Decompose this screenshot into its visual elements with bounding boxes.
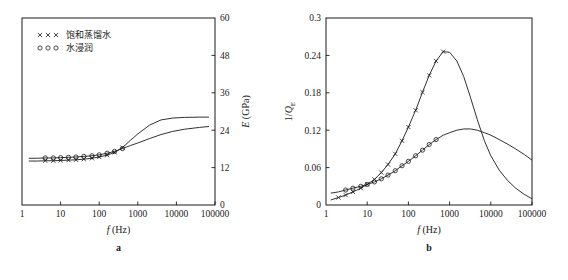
series-markers-2 — [344, 137, 439, 192]
legend-label: 水浸润 — [66, 42, 93, 53]
circle-marker — [54, 46, 58, 50]
figure-root: 11010010001000010000001224364860f (Hz)E … — [0, 0, 568, 280]
legend-label: 饱和蒸馏水 — [66, 29, 111, 40]
chart-b-svg: 11010010001000010000000.060.120.180.240.… — [284, 0, 568, 280]
series-curve-2 — [331, 129, 532, 193]
series-curve-2 — [29, 126, 209, 158]
x-tick-label: 10000 — [165, 209, 189, 219]
y-tick-label: 0.18 — [304, 88, 321, 98]
y-tick-label: 48 — [220, 51, 230, 61]
y-tick-label: 24 — [220, 126, 230, 136]
panel-a: 11010010001000010000001224364860f (Hz)E … — [0, 0, 284, 280]
y-axis-label: 1/QE — [284, 102, 297, 121]
x-tick-label: 100 — [92, 209, 107, 219]
x-tick-label: 1 — [20, 209, 25, 219]
y-tick-label: 60 — [220, 13, 230, 23]
series-curve-1 — [29, 117, 209, 161]
y-tick-label: 36 — [220, 88, 230, 98]
panel-tag: a — [116, 242, 121, 253]
series-curve-1 — [331, 52, 532, 200]
x-tick-label: 100000 — [201, 209, 230, 219]
x-tick-label: 1000 — [440, 209, 459, 219]
plot-frame — [22, 18, 215, 205]
x-tick-label: 100 — [401, 209, 416, 219]
x-tick-label: 1000 — [128, 209, 147, 219]
y-tick-label: 12 — [220, 163, 230, 173]
legend: 饱和蒸馏水水浸润 — [38, 29, 111, 53]
panel-tag: b — [426, 242, 432, 253]
plot-frame — [326, 18, 532, 205]
y-tick-label: 0.12 — [304, 126, 321, 136]
x-tick-label: 10 — [362, 209, 372, 219]
circle-marker — [46, 46, 50, 50]
panel-b: 11010010001000010000000.060.120.180.240.… — [284, 0, 568, 280]
y-tick-label: 0 — [316, 200, 321, 210]
y-tick-label: 0.24 — [304, 51, 321, 61]
x-axis-label: f (Hz) — [107, 224, 131, 236]
circle-marker — [38, 46, 42, 50]
chart-a-svg: 11010010001000010000001224364860f (Hz)E … — [0, 0, 284, 280]
x-tick-label: 10000 — [479, 209, 503, 219]
x-tick-label: 10 — [56, 209, 66, 219]
x-axis-label: f (Hz) — [417, 224, 441, 236]
x-tick-label: 100000 — [518, 209, 547, 219]
x-tick-label: 1 — [324, 209, 329, 219]
y-tick-label: 0.3 — [309, 13, 321, 23]
y-tick-label: 0.06 — [304, 163, 321, 173]
series-markers-1 — [336, 50, 445, 200]
y-tick-label: 0 — [220, 200, 225, 210]
y-axis-label: E (GPa) — [240, 95, 252, 129]
